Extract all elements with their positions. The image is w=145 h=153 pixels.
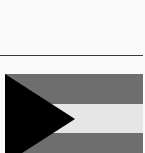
flag-triangle-icon [5, 74, 143, 153]
horizontal-divider [0, 55, 143, 56]
flag-image [5, 74, 143, 153]
